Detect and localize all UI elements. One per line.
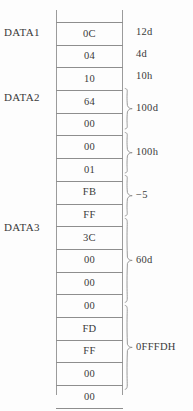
memory-cell: 3C: [56, 226, 123, 249]
memory-cell: 00: [56, 294, 123, 317]
memory-cell: 04: [56, 45, 123, 68]
memory-cell: 00: [56, 135, 123, 158]
memory-cell: 00: [56, 113, 123, 136]
memory-cell: FB: [56, 181, 123, 204]
memory-cell-value: 3C: [83, 232, 96, 243]
memory-cell-value: 00: [84, 119, 95, 130]
memory-cell-value: 00: [84, 391, 95, 402]
memory-cell-value: 04: [84, 51, 95, 62]
group-annotation: 100h: [136, 146, 158, 157]
memory-cell-value: 01: [84, 164, 95, 175]
group-brace: [124, 87, 133, 130]
memory-layout-diagram: 0C041064000001FBFF3C000000FDFF0000 DATA1…: [0, 0, 193, 411]
cell-annotation: 10h: [136, 70, 153, 81]
memory-region-label: DATA2: [4, 91, 54, 103]
memory-cell-value: FD: [82, 323, 96, 334]
memory-cell-value: 10: [84, 73, 95, 84]
memory-cell: 00: [56, 249, 123, 272]
memory-cell: 01: [56, 158, 123, 181]
memory-region-label: DATA3: [4, 221, 54, 233]
memory-cell-value: 00: [84, 368, 95, 379]
memory-cell-list: 0C041064000001FBFF3C000000FDFF0000: [56, 22, 123, 409]
memory-cell: 64: [56, 90, 123, 113]
cell-annotation: 12d: [136, 26, 153, 37]
memory-cell: 10: [56, 67, 123, 90]
group-brace: [124, 217, 133, 304]
group-annotation: 100d: [136, 102, 158, 113]
group-brace: [124, 304, 133, 391]
memory-cell: 00: [56, 385, 123, 409]
group-brace: [124, 131, 133, 174]
memory-cell: FF: [56, 340, 123, 363]
memory-region-label: DATA1: [4, 26, 54, 38]
memory-cell: 00: [56, 272, 123, 295]
memory-cell-value: FF: [83, 210, 95, 221]
memory-cell-value: FB: [83, 187, 96, 198]
memory-cell-value: 00: [84, 255, 95, 266]
memory-cell: FF: [56, 204, 123, 227]
memory-cell: FD: [56, 317, 123, 340]
memory-cell-value: 64: [84, 96, 95, 107]
memory-cell: 0C: [56, 22, 123, 45]
group-brace: [124, 174, 133, 217]
group-annotation: −5: [136, 189, 148, 200]
memory-column: 0C041064000001FBFF3C000000FDFF0000: [56, 10, 123, 395]
group-annotation: 60d: [136, 254, 153, 265]
memory-cell-value: 00: [84, 300, 95, 311]
group-annotation: 0FFFDH: [136, 341, 176, 352]
memory-cell-value: 0C: [83, 28, 96, 39]
cell-annotation: 4d: [136, 48, 147, 59]
memory-cell-value: FF: [83, 346, 95, 357]
memory-cell-value: 00: [84, 278, 95, 289]
memory-cell: 00: [56, 362, 123, 385]
memory-cell-value: 00: [84, 142, 95, 153]
